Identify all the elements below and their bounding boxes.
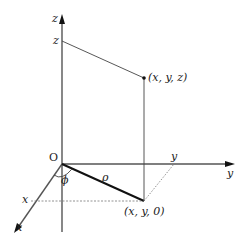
z-axis-label: z (51, 12, 58, 25)
z-tick-label: z (52, 34, 59, 47)
point-marker (142, 76, 146, 80)
z-axis-arrowhead (59, 14, 65, 24)
cylindrical-coordinates-diagram: z z (x, y, z) O y y x x ρ ϕ (x, y, 0) (0, 0, 246, 242)
y-projection-dotted-line (144, 164, 174, 201)
projection-label: (x, y, 0) (124, 205, 165, 218)
phi-label: ϕ (61, 174, 69, 187)
y-tick-label: y (170, 150, 178, 163)
rho-label: ρ (101, 171, 109, 184)
x-tick-label: x (22, 193, 29, 206)
origin-label: O (49, 151, 58, 164)
z-to-point-line (62, 41, 144, 78)
y-axis-label: y (226, 167, 234, 180)
point-label: (x, y, z) (148, 71, 187, 84)
x-axis-label: x (16, 221, 23, 234)
